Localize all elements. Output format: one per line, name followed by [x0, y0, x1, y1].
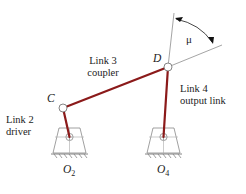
link2-name: Link 2 [6, 114, 34, 126]
joint-c-label: C [47, 92, 55, 104]
angle-arc [176, 19, 212, 42]
joint-c [59, 104, 67, 112]
construction-line-link4-extension [168, 13, 174, 67]
joint-d [164, 63, 172, 71]
link2-role: driver [6, 126, 34, 138]
construction-line-coupler-extension [168, 45, 222, 67]
o2-label: O2 [63, 163, 75, 180]
o2-subscript: 2 [71, 169, 75, 178]
joint-d-label: D [153, 52, 161, 64]
link-2-driver [63, 108, 70, 137]
o4-subscript: 4 [165, 169, 169, 178]
transmission-angle-label: μ [186, 33, 192, 45]
link3-label: Link 3 coupler [82, 55, 124, 79]
o4-label: O4 [157, 163, 169, 180]
link3-name: Link 3 [82, 55, 124, 67]
link2-label: Link 2 driver [6, 114, 34, 138]
link4-label: Link 4 output link [180, 83, 226, 107]
link4-role: output link [180, 95, 226, 107]
link4-name: Link 4 [180, 83, 226, 95]
fourbar-linkage-diagram: Link 3 coupler Link 2 driver Link 4 outp… [0, 0, 246, 194]
link-4-output [164, 67, 169, 137]
arc-arrowhead-bottom [208, 37, 214, 44]
link3-role: coupler [82, 67, 124, 79]
